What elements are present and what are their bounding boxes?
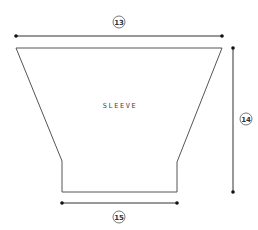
dimension-14: 14	[231, 46, 252, 194]
sleeve-outline	[16, 48, 222, 192]
badge-label-14: 14	[241, 116, 251, 124]
dimension-15: 15	[60, 201, 179, 223]
badge-label-13: 13	[114, 19, 124, 27]
endpoint-dot	[231, 190, 235, 194]
endpoint-dot	[60, 201, 64, 205]
endpoint-dot	[231, 46, 235, 50]
sleeve-schematic: SLEEVE 13 14 15	[0, 0, 258, 230]
badge-label-15: 15	[114, 214, 124, 222]
endpoint-dot	[220, 34, 224, 38]
endpoint-dot	[14, 34, 18, 38]
piece-label: SLEEVE	[103, 102, 137, 110]
endpoint-dot	[175, 201, 179, 205]
dimension-13: 13	[14, 16, 224, 38]
